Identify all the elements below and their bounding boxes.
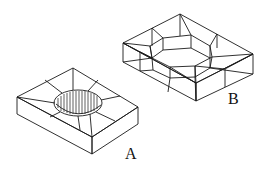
label-b: B: [228, 91, 239, 107]
block-b: [123, 14, 253, 101]
block-a: [17, 68, 138, 154]
label-a: A: [125, 146, 137, 162]
